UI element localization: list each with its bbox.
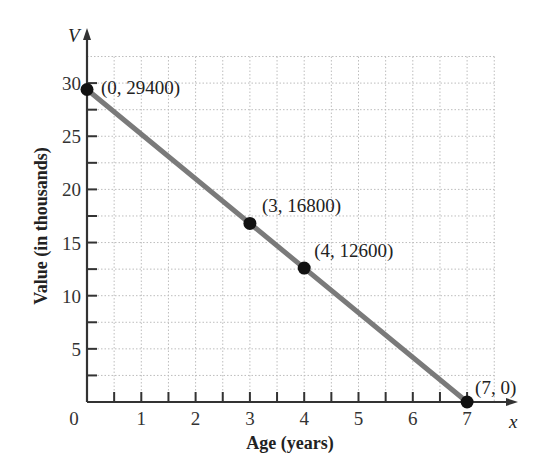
x-axis-title: Age (years)	[246, 433, 333, 454]
data-point	[243, 217, 256, 230]
point-label: (3, 16800)	[262, 195, 341, 217]
y-tick-label: 20	[62, 179, 81, 200]
y-tick-label: 25	[62, 126, 81, 147]
y-axis-arrow-icon	[83, 28, 91, 40]
line-chart: 0123456751015202530 (0, 29400)(3, 16800)…	[0, 0, 551, 473]
point-label: (0, 29400)	[101, 77, 180, 99]
x-tick-label: 0	[69, 408, 79, 429]
point-label: (4, 12600)	[314, 240, 393, 262]
y-tick-label: 10	[62, 286, 81, 307]
data-point	[81, 83, 94, 96]
y-tick-label: 15	[62, 233, 81, 254]
x-axis-arrow-icon	[506, 398, 518, 406]
x-tick-label: 3	[245, 408, 255, 429]
x-tick-label: 2	[191, 408, 201, 429]
y-tick-label: 5	[72, 339, 82, 360]
grid-lines	[87, 57, 494, 402]
x-tick-label: 5	[354, 408, 364, 429]
y-axis-title: Value (in thousands)	[31, 147, 52, 304]
x-tick-label: 7	[462, 408, 472, 429]
point-label: (7, 0)	[475, 377, 516, 399]
data-point	[461, 396, 474, 409]
y-axis-variable: V	[68, 25, 82, 46]
data-point	[298, 262, 311, 275]
x-axis-variable: x	[508, 411, 518, 432]
x-tick-label: 1	[137, 408, 147, 429]
x-tick-label: 6	[408, 408, 418, 429]
y-tick-label: 30	[62, 73, 81, 94]
x-tick-label: 4	[299, 408, 309, 429]
